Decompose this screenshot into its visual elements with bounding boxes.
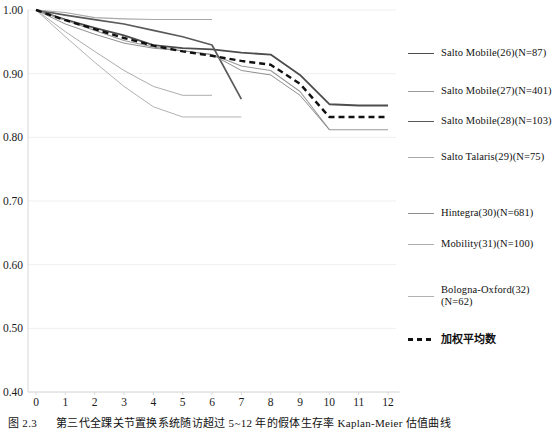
legend-item-7[interactable]: 加权平均数: [408, 332, 497, 346]
x-tick-label-12: 12: [382, 396, 394, 408]
x-axis-tick-labels: 0123456789101112: [33, 396, 394, 408]
legend-label-0: Salto Mobile(26)(N=87): [441, 47, 546, 59]
legend-label-2: Salto Mobile(28)(N=103): [441, 115, 552, 127]
legend-label-7: 加权平均数: [441, 333, 497, 345]
legend-label-1: Salto Mobile(27)(N=401): [441, 85, 552, 97]
legend-swatch-7: [408, 338, 434, 341]
axis-lines: [28, 10, 400, 395]
series-line-4: [36, 10, 329, 130]
survival-curves: [36, 10, 388, 130]
y-tick-label-1.00: 1.00: [3, 4, 23, 16]
x-tick-label-6: 6: [209, 396, 215, 408]
series-line-6: [36, 10, 241, 117]
x-tick-label-2: 2: [92, 396, 98, 408]
legend-item-5[interactable]: Mobility(31)(N=100): [408, 237, 533, 251]
legend-swatch-6: [408, 296, 434, 297]
x-tick-label-5: 5: [180, 396, 186, 408]
x-tick-label-11: 11: [353, 396, 364, 408]
y-tick-label-0.90: 0.90: [3, 68, 23, 80]
legend-item-1[interactable]: Salto Mobile(27)(N=401): [408, 84, 552, 98]
y-tick-label-0.40: 0.40: [3, 386, 23, 398]
legend-item-2[interactable]: Salto Mobile(28)(N=103): [408, 114, 552, 128]
x-tick-label-9: 9: [297, 396, 303, 408]
x-tick-label-1: 1: [62, 396, 68, 408]
y-tick-label-0.70: 0.70: [3, 195, 23, 207]
figure-caption-text: 第三代全踝关节置换系统随访超过 5~12 年的假体生存率 Kaplan-Meie…: [56, 417, 451, 429]
x-tick-label-7: 7: [238, 396, 244, 408]
legend-swatch-0: [408, 53, 434, 54]
figure-caption: 图 2.3 第三代全踝关节置换系统随访超过 5~12 年的假体生存率 Kapla…: [8, 414, 554, 430]
x-tick-label-0: 0: [33, 396, 39, 408]
legend-item-4[interactable]: Hintegra(30)(N=681): [408, 206, 533, 220]
legend-swatch-3: [408, 157, 434, 158]
legend-label-4: Hintegra(30)(N=681): [441, 207, 533, 219]
y-axis-tick-labels: 0.400.500.600.700.800.901.00: [3, 4, 23, 398]
y-tick-label-0.60: 0.60: [3, 259, 23, 271]
legend-label-5: Mobility(31)(N=100): [441, 238, 533, 250]
legend-label-6: Bologna-Oxford(32)(N=62): [441, 284, 560, 308]
x-tick-label-8: 8: [268, 396, 274, 408]
figure-number: 图 2.3: [8, 417, 37, 429]
legend-item-0[interactable]: Salto Mobile(26)(N=87): [408, 46, 546, 60]
x-tick-label-3: 3: [121, 396, 127, 408]
legend-item-3[interactable]: Salto Talaris(29)(N=75): [408, 150, 544, 164]
x-tick-label-10: 10: [324, 396, 336, 408]
legend-label-3: Salto Talaris(29)(N=75): [441, 151, 544, 163]
kaplan-meier-figure: 0.400.500.600.700.800.901.00 01234567891…: [0, 0, 560, 432]
legend-swatch-2: [408, 121, 434, 122]
y-tick-label-0.80: 0.80: [3, 131, 23, 143]
x-tick-label-4: 4: [150, 396, 156, 408]
legend-swatch-4: [408, 213, 434, 214]
legend-swatch-1: [408, 91, 434, 92]
legend-item-6[interactable]: Bologna-Oxford(32)(N=62): [408, 289, 560, 303]
legend-swatch-5: [408, 244, 434, 245]
grid-lines: [28, 10, 396, 392]
y-tick-label-0.50: 0.50: [3, 322, 23, 334]
